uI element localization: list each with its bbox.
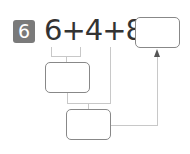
arrow-up-icon bbox=[154, 49, 160, 57]
answer-box[interactable] bbox=[135, 17, 180, 48]
problem-number-badge: 6 bbox=[13, 20, 35, 43]
bracket-right bbox=[80, 47, 81, 56]
step2-box[interactable] bbox=[66, 109, 111, 140]
eight-connector-down bbox=[110, 47, 111, 104]
step1-box[interactable] bbox=[45, 62, 90, 93]
step1-connector-down bbox=[67, 93, 68, 103]
step2-connector-across bbox=[111, 125, 158, 126]
step1-connector-across bbox=[67, 103, 111, 104]
step2-connector-up bbox=[157, 55, 158, 126]
bracket-left bbox=[51, 47, 52, 56]
